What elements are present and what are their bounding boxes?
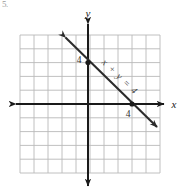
plotted-line	[66, 38, 158, 128]
figure-root: 5.	[0, 0, 188, 194]
x-intercept-point	[129, 101, 134, 106]
y-intercept-point	[85, 60, 90, 65]
coordinate-plane-graph: x y 4 4 x + y = 4	[0, 0, 188, 194]
x-axis-label: x	[171, 98, 177, 110]
y-axis-label: y	[85, 7, 91, 19]
y-intercept-tick-label: 4	[77, 55, 82, 65]
x-intercept-tick-label: 4	[126, 109, 131, 119]
